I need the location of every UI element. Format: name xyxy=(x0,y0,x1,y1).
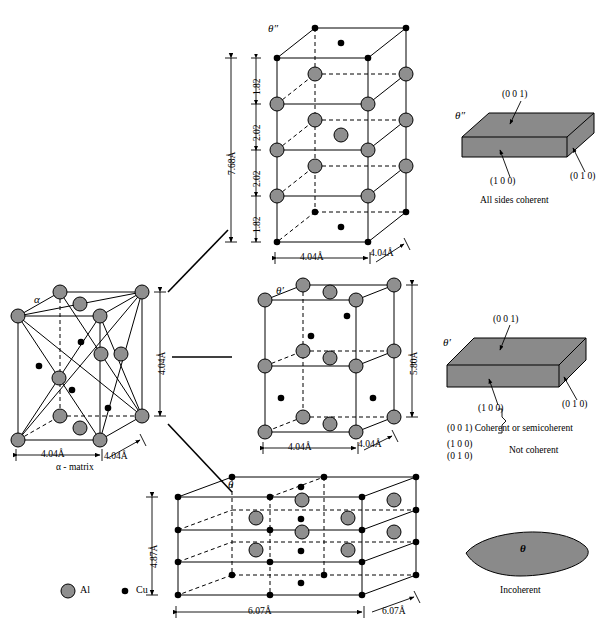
theta-prime-cell xyxy=(258,278,418,454)
panel3-caption: Incoherent xyxy=(500,586,541,596)
panel1-face-side: (0 1 0) xyxy=(570,172,595,182)
legend-cu-label: Cu xyxy=(136,585,148,595)
panel-theta-lens xyxy=(466,532,588,576)
alpha-dimensions xyxy=(16,292,166,461)
tp-height-dim: 5.80Å xyxy=(410,352,420,376)
panel2-face-front: (1 0 0) xyxy=(478,404,503,414)
connector-lines xyxy=(168,230,232,492)
tp-width-dim: 4.04Å xyxy=(288,443,312,453)
figure-canvas: α 4.04Å 4.04Å 4.04Å α - matrix θ″ 7.68Å … xyxy=(0,0,615,639)
alpha-matrix-caption: α - matrix xyxy=(56,463,94,473)
panel2-note-line1: (0 0 1) Coherent or semicoherent xyxy=(447,424,573,434)
theta-depth-dim: 6.07Å xyxy=(382,607,406,617)
tdp-al-atoms xyxy=(270,67,413,203)
theta-double-prime-phase-label: θ″ xyxy=(268,23,278,34)
panel1-phase-label: θ″ xyxy=(455,110,465,121)
tdp-seg3-dim: 2.02 xyxy=(253,170,263,187)
alpha-width-dim: 4.04Å xyxy=(41,450,65,460)
theta-al-atoms xyxy=(249,493,401,557)
theta-cell xyxy=(146,474,420,618)
panel-theta-double-prime-slab xyxy=(462,101,594,177)
tdp-width-dim: 4.04Å xyxy=(300,253,324,263)
theta-height-dim: 4.87Å xyxy=(150,545,160,569)
alpha-matrix-cell xyxy=(11,285,166,461)
tp-dimensions xyxy=(263,285,418,454)
panel3-phase-label: θ xyxy=(520,543,526,554)
alpha-height-dim: 4.04Å xyxy=(158,352,168,376)
panel1-face-top: (0 0 1) xyxy=(502,90,527,100)
panel2-note-brace-bottom: (0 1 0) xyxy=(447,452,472,462)
tdp-seg4-dim: 1.82 xyxy=(253,216,263,233)
panel1-face-front: (1 0 0) xyxy=(490,177,515,187)
panel2-face-top: (0 0 1) xyxy=(493,315,518,325)
legend-symbols xyxy=(61,584,128,598)
panel2-phase-label: θ′ xyxy=(443,337,451,348)
panel2-note-line2: Not coherent xyxy=(509,446,558,456)
theta-prime-phase-label: θ′ xyxy=(276,285,284,296)
panel-theta-prime-slab xyxy=(447,325,586,433)
tp-depth-dim: 4.04Å xyxy=(358,440,382,450)
tdp-total-height-dim: 7.68Å xyxy=(228,152,238,176)
panel1-caption: All sides coherent xyxy=(480,196,549,206)
tdp-seg2-dim: 2.02 xyxy=(253,124,263,141)
panel2-note-brace-top: (1 0 0) xyxy=(447,440,472,450)
tp-al-atoms xyxy=(258,278,401,439)
alpha-depth-dim: 4.04Å xyxy=(104,452,128,462)
panel2-face-side: (0 1 0) xyxy=(562,400,587,410)
legend-al-label: Al xyxy=(80,585,90,595)
tdp-seg1-dim: 1.82 xyxy=(253,78,263,95)
alpha-phase-label: α xyxy=(34,294,40,305)
theta-dimensions xyxy=(146,497,420,618)
theta-width-dim: 6.07Å xyxy=(248,607,272,617)
tdp-depth-dim: 4.04Å xyxy=(370,249,394,259)
theta-phase-label: θ xyxy=(228,479,233,490)
